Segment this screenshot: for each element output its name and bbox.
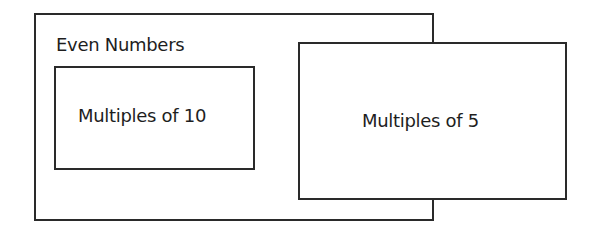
multiples-of-10-label: Multiples of 10 bbox=[78, 105, 206, 126]
even-numbers-label: Even Numbers bbox=[56, 34, 184, 55]
multiples-of-5-label: Multiples of 5 bbox=[362, 110, 479, 131]
